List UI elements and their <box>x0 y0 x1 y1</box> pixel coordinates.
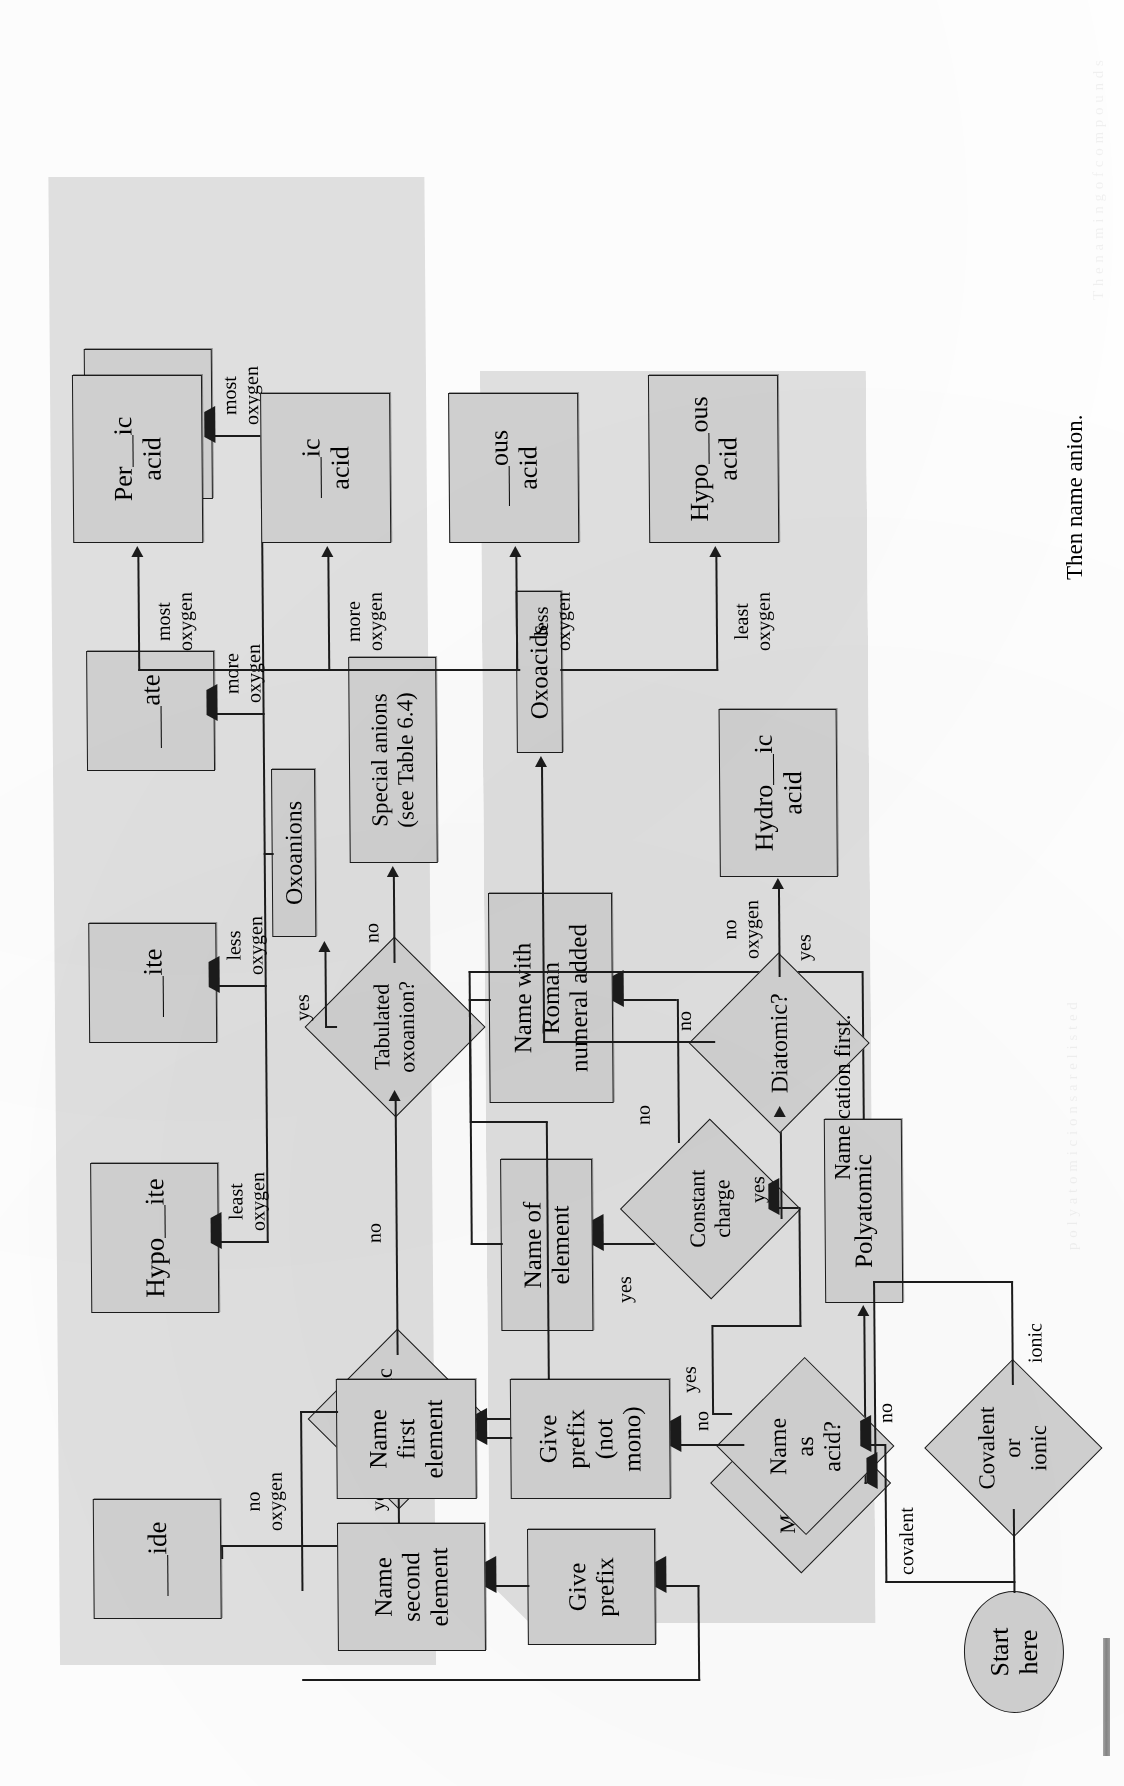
label-diatomic-yes: yes <box>792 934 814 961</box>
label-no-oxygen-acid: no oxygen <box>718 900 762 959</box>
node-ide: ide <box>93 1499 222 1619</box>
label-least-oxygen-anion: least oxygen <box>224 1172 268 1231</box>
node-name-second-element: Name second element <box>337 1523 486 1651</box>
merge-to-anion-corner <box>470 1121 548 1123</box>
edge-covalent-run <box>884 1446 887 1583</box>
edge-mono-cation-yes-v2 <box>711 1325 801 1327</box>
label-ionic: ionic <box>1023 1323 1045 1363</box>
arrowhead-name-first-element <box>476 1408 487 1445</box>
edge-prefix-to-first <box>484 1437 512 1439</box>
node-give-prefix-not-mono: Give prefix (not mono) <box>510 1379 671 1499</box>
edge-wrap-left <box>302 1679 700 1681</box>
caption-then-name-anion: Then name anion. <box>1062 415 1088 580</box>
label-tab-no: no <box>360 923 382 943</box>
label-least-oxygen-acid: least oxygen <box>730 592 774 651</box>
polyatomic-out-riser <box>469 971 863 973</box>
edge-ionic-up <box>873 1281 1013 1283</box>
edge-tab-yes <box>325 1026 337 1028</box>
label-no-oxygen-anion: no oxygen <box>242 1472 286 1531</box>
node-start-here: Start here <box>963 1591 1064 1713</box>
arrowhead-ous-acid <box>509 546 521 557</box>
edge-ionic-run <box>1011 1281 1014 1385</box>
node-hypo-ite: Hypoite <box>90 1163 219 1313</box>
node-hypo-ous-acid: Hypoous acid <box>648 375 779 543</box>
label-covalent: covalent <box>895 1507 918 1575</box>
arrowhead-hypo-ous-acid <box>709 546 721 557</box>
label-acid-yes: yes <box>746 1176 768 1203</box>
label-most-oxygen-acid: most oxygen <box>152 592 196 651</box>
label-less-oxygen-acid: less oxygen <box>530 592 574 651</box>
node-per-ic-acid: Peric acid <box>72 375 203 543</box>
edge-giveprefix-to-second <box>493 1585 529 1587</box>
flowchart: ide Hypoite ite ate Perate Oxoanions Mon… <box>25 43 1098 1743</box>
drop-per-ate <box>212 435 262 437</box>
edge-diatomic-no-riser <box>543 1041 715 1043</box>
edge-covalent-into-acid <box>868 1444 886 1446</box>
edge-const-no <box>621 999 677 1001</box>
label-acid-no: no <box>690 1411 712 1431</box>
label-less-oxygen-anion: less oxygen <box>222 916 266 975</box>
arrowhead-diatomic <box>774 1106 786 1117</box>
arrowhead-tabulated <box>389 1090 401 1101</box>
arrowhead-ate <box>206 684 217 721</box>
arrowhead-oxoanions <box>318 941 330 952</box>
edge-giveprefix-in <box>663 1585 699 1587</box>
label-diatomic-no: no <box>673 1011 695 1031</box>
label-const-yes: yes <box>613 1276 635 1303</box>
edge-mono-cation-yes-riser <box>712 1413 732 1415</box>
drop-ate <box>215 713 265 715</box>
label-most-oxygen-anion: most oxygen <box>218 366 262 425</box>
edge-covalent-riser <box>885 1581 1015 1583</box>
arrowhead-name-of-element <box>593 1214 604 1251</box>
node-give-prefix: Give prefix <box>527 1529 656 1645</box>
polyatomic-out-top <box>469 971 472 1123</box>
label-tab-yes: yes <box>291 994 313 1021</box>
arrowhead-name-as-acid <box>860 1415 871 1452</box>
arrowhead-special-anions <box>387 866 399 877</box>
drop-ite <box>217 985 267 987</box>
book-spine-shadow <box>1103 1638 1110 1756</box>
label-mono-anion-no: no <box>363 1223 385 1243</box>
arrowhead-ic-acid <box>321 546 333 557</box>
arrowhead-give-prefix <box>655 1556 666 1593</box>
node-oxoanions: Oxoanions <box>271 769 316 937</box>
oxoanion-bus-stub <box>264 853 274 855</box>
arrowhead-hypo-ite <box>211 1212 222 1249</box>
bleed-through-text: T h e n a m i n g o f c o m p o u n d s <box>1090 60 1107 300</box>
edge-acid-no <box>678 1444 744 1446</box>
node-special-anions: Special anions (see Table 6.4) <box>348 657 438 863</box>
node-name-first-element: Name first element <box>336 1379 477 1499</box>
label-more-oxygen-anion: more oxygen <box>220 644 264 703</box>
merge-name-of-element <box>471 1243 503 1245</box>
arrowhead-ite <box>208 956 219 993</box>
node-name-with-roman: Name with Roman numeral added <box>488 893 614 1103</box>
node-hydro-ic-acid: Hydroic acid <box>719 709 838 877</box>
arrowhead-per-ate <box>204 406 215 443</box>
arrowhead-oxoacids <box>535 756 547 767</box>
label-more-oxygen-acid: more oxygen <box>342 592 386 651</box>
arrowhead-name-with-roman <box>613 970 624 1007</box>
arrowhead-hydro-ic-acid <box>772 878 784 889</box>
caption-name-cation-first: Name cation first. <box>830 1015 856 1180</box>
oxoacid-bus-lower <box>560 669 718 671</box>
arrowhead-constant-charge <box>768 1178 779 1215</box>
edge-ide-in <box>221 1545 223 1559</box>
arrowhead-name-second-element <box>485 1556 496 1593</box>
scanned-page: T h e n a m i n g o f c o m p o u n d s … <box>0 0 1124 1786</box>
arrowhead-give-prefix-not-mono <box>670 1415 681 1452</box>
edge-first-wrap-up <box>300 1411 338 1413</box>
arrowhead-per-ic-acid <box>131 546 143 557</box>
label-const-no: no <box>632 1105 654 1125</box>
label-mono-cation-no: no <box>874 1403 896 1423</box>
edge-const-yes <box>601 1243 655 1245</box>
arrowhead-polyatomic <box>857 1305 869 1316</box>
node-ite: ite <box>88 923 217 1043</box>
merge-name-with-roman <box>469 999 491 1001</box>
node-ous-acid: ous acid <box>448 393 579 543</box>
node-ic-acid: ic acid <box>260 393 391 543</box>
arrowhead-monatomic-cation <box>866 1452 877 1489</box>
drop-hypo-ite <box>219 1241 269 1243</box>
label-mono-cation-yes: yes <box>678 1366 700 1393</box>
